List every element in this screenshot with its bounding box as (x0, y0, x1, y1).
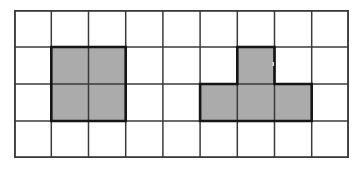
shaded-cell-r3-c7 (237, 84, 274, 121)
shaded-cell-r2-c7 (237, 47, 274, 84)
shaded-cell-r3-c2 (51, 84, 88, 121)
artifact-speck-0 (272, 62, 274, 66)
figure-canvas (0, 0, 363, 172)
shaded-cell-r2-c2 (51, 47, 88, 84)
shaded-cell-r3-c6 (200, 84, 237, 121)
artifacts-layer (272, 62, 274, 66)
shaded-cell-r3-c8 (275, 84, 312, 121)
shaded-cell-r3-c3 (89, 84, 126, 121)
grid-figure (14, 10, 349, 158)
shaded-cell-r2-c3 (89, 47, 126, 84)
grid-svg (14, 10, 349, 158)
